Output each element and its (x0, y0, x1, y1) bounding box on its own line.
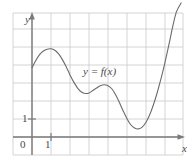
x-tick-label-1: 1 (45, 139, 51, 150)
y-axis-label: y (25, 14, 30, 25)
function-graph-figure: y x 1 0 1 y = f(x) (0, 0, 196, 167)
y-tick-label-1: 1 (22, 113, 28, 124)
grid-lines (13, 13, 183, 155)
origin-label: 0 (20, 139, 26, 150)
plot-canvas (0, 0, 196, 167)
y-axis (29, 12, 35, 155)
x-axis-label: x (182, 143, 187, 154)
x-axis (13, 134, 185, 140)
x-axis-arrowhead (178, 134, 186, 140)
curve-equation-label: y = f(x) (83, 66, 116, 77)
